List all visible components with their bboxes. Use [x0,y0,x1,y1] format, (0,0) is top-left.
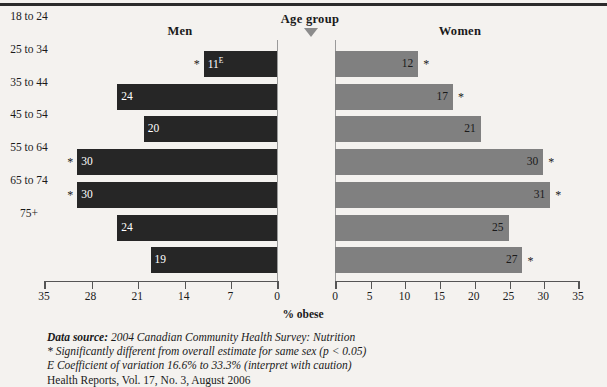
axis-tick-label: 28 [85,290,97,302]
axis-tick [336,282,337,289]
men-heading: Men [120,24,240,39]
axis-tick-label: 0 [274,290,280,302]
axis-tick [371,282,372,289]
men-bar[interactable]: 24 [117,215,277,241]
footnote-lead: Data source: [47,331,108,343]
women-bar-row: 30* [335,146,578,179]
men-bar[interactable]: 20 [144,116,277,142]
axis-tick [440,282,441,289]
footnotes: Data source: 2004 Canadian Community Hea… [47,330,567,387]
axis-tick [475,282,476,289]
women-bar-value: 27 [506,254,518,266]
men-bar-row: 19 [44,244,277,277]
men-bar[interactable]: 11E [204,51,277,77]
axis-tick-label: 25 [503,290,515,302]
women-axis [335,281,580,289]
axis-tick-label: 30 [538,290,550,302]
men-axis-rail [277,40,278,281]
men-bar[interactable]: 24 [117,84,277,110]
women-bar-row: 25 [335,212,578,245]
significance-asterisk: * [67,156,73,168]
women-bar-value: 12 [402,58,414,70]
men-bar[interactable]: 30 [77,182,277,208]
women-bar-row: 31* [335,179,578,212]
axis-tick [185,282,186,289]
axis-tick-label: 20 [468,290,480,302]
footnote-line: * Significantly different from overall e… [47,344,567,358]
men-bar-value: 24 [121,91,133,103]
women-bar[interactable]: 27 [335,247,522,273]
women-bar-row: 21 [335,113,578,146]
men-bar[interactable]: 30 [77,149,277,175]
women-bar-row: 27* [335,244,578,277]
axis-tick [405,282,406,289]
men-bar-value: 30 [81,156,93,168]
men-bars-panel: 11E*242030*30*2419 [44,48,277,277]
men-bar-row: 24 [44,81,277,114]
axis-tick [45,282,46,289]
men-bar-value: 24 [121,222,133,234]
men-bar-value: 20 [148,124,160,136]
axis-tick-label: 14 [178,290,190,302]
axis-tick [277,282,278,289]
axis-tick-label: 7 [228,290,234,302]
footnote-line: Health Reports, Vol. 17, No. 3, August 2… [47,373,567,387]
axis-tick [578,282,579,289]
women-bar[interactable]: 17 [335,84,453,110]
significance-asterisk: * [527,255,533,267]
axis-tick [138,282,139,289]
axis-tick-label: 35 [572,290,584,302]
significance-asterisk: * [194,58,200,70]
women-bar-value: 17 [437,91,449,103]
men-bar-value: 11E [208,57,224,70]
women-heading: Women [400,24,520,39]
women-bar-value: 30 [527,156,539,168]
age-group-heading: Age group [250,12,370,27]
axis-tick-label: 15 [433,290,445,302]
significance-asterisk: * [458,91,464,103]
women-bar[interactable]: 30 [335,149,543,175]
axis-title: % obese [253,308,353,320]
women-bar[interactable]: 21 [335,116,481,142]
footnote-line: Data source: 2004 Canadian Community Hea… [47,330,567,344]
axis-tick [92,282,93,289]
axis-tick-label: 21 [131,290,143,302]
top-rule [0,3,607,6]
triangle-down-icon [304,28,318,37]
women-bar[interactable]: 12 [335,51,418,77]
women-bar-value: 21 [464,124,476,136]
axis-tick [544,282,545,289]
axis-tick-label: 5 [367,290,373,302]
men-bar-row: 11E* [44,48,277,81]
axis-tick [231,282,232,289]
significance-asterisk: * [555,189,561,201]
significance-asterisk: * [423,58,429,70]
women-bars-panel: 12*17*2130*31*2527* [335,48,578,277]
men-bar-row: 24 [44,212,277,245]
men-bar-row: 30* [44,179,277,212]
men-axis [44,281,279,289]
men-bar[interactable]: 19 [151,247,277,273]
axis-tick-label: 10 [399,290,411,302]
men-bar-value: 19 [155,254,167,266]
footnote-line: E Coefficient of variation 16.6% to 33.3… [47,358,567,372]
axis-tick [510,282,511,289]
significance-asterisk: * [548,156,554,168]
men-bar-row: 30* [44,146,277,179]
men-bar-value: 30 [81,189,93,201]
women-bar-row: 17* [335,81,578,114]
axis-tick-label: 0 [332,290,338,302]
significance-asterisk: * [67,189,73,201]
women-bar-value: 25 [492,222,504,234]
women-bar-row: 12* [335,48,578,81]
men-bar-row: 20 [44,113,277,146]
women-bar[interactable]: 31 [335,182,550,208]
women-bar[interactable]: 25 [335,215,509,241]
women-bar-value: 31 [534,189,546,201]
axis-tick-label: 35 [38,290,50,302]
cv-superscript: E [219,56,224,65]
